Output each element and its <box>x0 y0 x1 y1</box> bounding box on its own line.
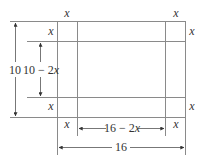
label-width-16: 16 <box>115 140 127 154</box>
label-x-bottom-right-bottom: x <box>172 117 179 131</box>
label-inner-width: 16 − 2x <box>104 121 141 135</box>
label-x-top-left-top: x <box>63 6 70 20</box>
outer-rectangle <box>58 22 186 118</box>
label-inner-height: 10 − 2x <box>23 63 60 77</box>
label-height-10: 10 <box>9 63 21 77</box>
label-x-bottom-right-side: x <box>188 99 195 113</box>
box-cutout-diagram: 10 10 − 2x 16 − 2x 16 x x x x x x x x <box>0 0 202 166</box>
label-x-bottom-left-side: x <box>47 99 54 113</box>
label-x-bottom-left-bottom: x <box>63 117 70 131</box>
label-x-top-right-top: x <box>172 6 179 20</box>
label-x-top-left-side: x <box>47 24 54 38</box>
label-x-top-right-side: x <box>188 24 195 38</box>
